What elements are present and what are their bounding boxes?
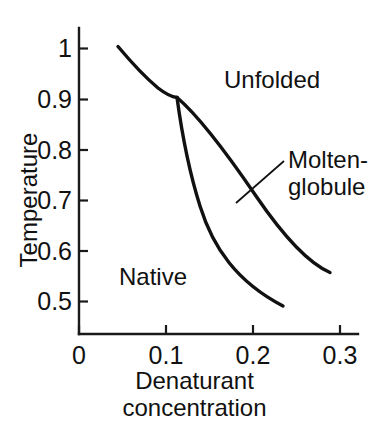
x-tick-label-0.2: 0.2 (223, 343, 283, 368)
curve-native-boundary (177, 98, 283, 307)
region-label-unfolded: Unfolded (224, 68, 320, 92)
x-axis-ticks (79, 325, 340, 334)
y-axis-title: Temperature (15, 80, 43, 320)
y-tick-label-1: 1 (24, 36, 72, 61)
annotation-molten-globule-line2: globule (288, 175, 365, 199)
curve-native-to-unfolded (118, 47, 177, 98)
x-tick-label-0.1: 0.1 (136, 343, 196, 368)
y-axis-ticks (79, 49, 88, 302)
x-axis-title-line1: Denaturant (0, 369, 389, 393)
region-label-native: Native (119, 265, 187, 289)
x-axis-title-line2: concentration (0, 396, 389, 420)
annotation-molten-globule-line1: Molten- (288, 148, 368, 172)
phase-diagram-figure: 1 0.9 0.8 0.7 0.6 0.5 0 0.1 0.2 0.3 Unfo… (0, 0, 389, 439)
x-tick-label-0: 0 (59, 343, 99, 368)
molten-globule-leader-line (236, 161, 284, 203)
x-tick-label-0.3: 0.3 (310, 343, 370, 368)
